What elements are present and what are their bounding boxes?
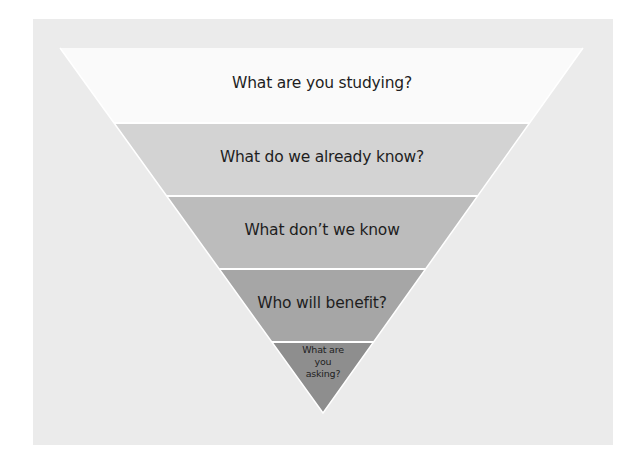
level-5-label: What are you asking? — [292, 344, 354, 380]
level-4-label: Who will benefit? — [0, 294, 644, 312]
level-2-label: What do we already know? — [0, 148, 644, 166]
level-1-label: What are you studying? — [0, 74, 644, 92]
level-5-label-line-2: you — [292, 356, 354, 368]
level-5-label-line-3: asking? — [292, 368, 354, 380]
level-3-label: What don’t we know — [0, 221, 644, 239]
level-5-label-line-1: What are — [292, 344, 354, 356]
